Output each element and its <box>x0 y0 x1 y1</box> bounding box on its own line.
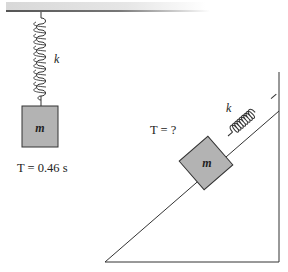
incline-mass-label: m <box>202 156 211 170</box>
incline-spring-label: k <box>226 101 232 115</box>
hanging-spring-label: k <box>54 52 60 66</box>
hanging-period-label: T = 0.46 s <box>17 161 68 175</box>
physics-diagram: k m T = 0.46 s k m T = ? <box>0 0 288 272</box>
hanging-block: m <box>22 106 58 147</box>
incline-period-label: T = ? <box>150 123 177 137</box>
incline-surface <box>105 111 279 262</box>
ceiling <box>6 2 210 12</box>
incline-spring <box>224 89 279 138</box>
hanging-spring <box>34 12 46 106</box>
hanging-mass-label: m <box>35 121 44 135</box>
